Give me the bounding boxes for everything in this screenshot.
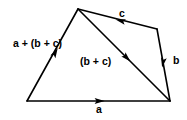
partial-sum-label: (b + c)	[80, 56, 111, 67]
vector-c-label: c	[119, 8, 125, 19]
vector-c-edge-line	[78, 9, 157, 29]
vector-b-label: b	[173, 55, 179, 66]
vector-addition-figure: a + (b + c) (b + c) a b c	[0, 0, 187, 120]
vector-a-label: a	[96, 104, 102, 115]
resultant-label: a + (b + c)	[13, 38, 62, 49]
